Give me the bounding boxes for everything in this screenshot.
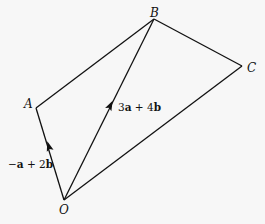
vector-diagram: B A C O 3a + 4b −a + 2b [0, 0, 265, 224]
point-label-a: A [23, 97, 33, 111]
vector-label-ob: 3a + 4b [118, 101, 161, 113]
point-label-b: B [149, 6, 159, 20]
vector-label-oa: −a + 2b [8, 158, 53, 170]
point-label-c: C [247, 61, 256, 75]
point-label-o: O [59, 203, 69, 217]
segment-bc [154, 19, 242, 66]
arrow-head-icon [105, 99, 116, 111]
segment-co [64, 66, 242, 200]
segment-ab [36, 19, 154, 108]
segment-oa [36, 108, 64, 200]
